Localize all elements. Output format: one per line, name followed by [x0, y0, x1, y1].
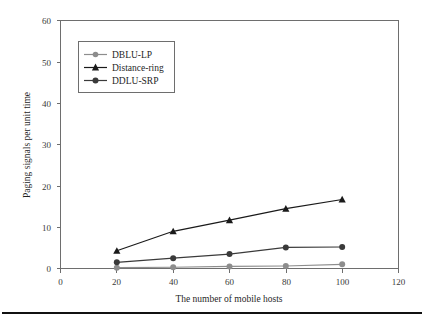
data-point-marker [283, 244, 289, 250]
legend-label-distance-ring: Distance-ring [112, 63, 164, 73]
series-distance-ring [113, 196, 346, 254]
data-point-marker [227, 251, 233, 257]
y-tick-label-10: 10 [42, 223, 52, 233]
data-series-layer [113, 196, 346, 271]
y-tick-label-20: 20 [42, 182, 52, 192]
x-tick-label-40: 40 [169, 277, 179, 287]
legend-marker-circle-icon [93, 52, 99, 58]
data-point-marker [283, 263, 289, 269]
data-point-marker [170, 264, 176, 270]
x-tick-label-120: 120 [392, 277, 406, 287]
x-axis-title: The number of mobile hosts [175, 294, 282, 304]
series-dblu-lp [114, 261, 345, 270]
y-tick-label-60: 60 [42, 16, 52, 26]
line-chart: 0 10 20 30 40 50 60 0 20 40 60 80 100 12… [0, 0, 424, 323]
legend: DBLU-LP Distance-ring DDLU-SRP [79, 42, 175, 93]
x-tick-label-80: 80 [282, 277, 292, 287]
x-tick-label-60: 60 [225, 277, 235, 287]
legend-label-ddlu-srp: DDLU-SRP [112, 76, 158, 86]
legend-marker-circle-icon [93, 78, 99, 84]
y-tick-label-30: 30 [42, 140, 52, 150]
series-ddlu-srp [114, 244, 345, 265]
data-point-marker [114, 265, 120, 271]
legend-label-dblu-lp: DBLU-LP [112, 50, 152, 60]
x-tick-label-0: 0 [58, 277, 63, 287]
x-axis-tick-labels: 0 20 40 60 80 100 120 [58, 277, 406, 287]
data-point-marker [339, 196, 346, 203]
x-tick-label-20: 20 [112, 277, 122, 287]
figure-container: 0 10 20 30 40 50 60 0 20 40 60 80 100 12… [0, 0, 424, 323]
y-tick-label-40: 40 [42, 99, 52, 109]
y-axis-title: Paging signals per unit time [22, 92, 32, 198]
data-point-marker [170, 255, 176, 261]
y-axis-tick-labels: 0 10 20 30 40 50 60 [42, 16, 52, 274]
data-point-marker [339, 244, 345, 250]
data-point-marker [339, 261, 345, 267]
y-axis-ticks [57, 21, 61, 269]
data-point-marker [227, 263, 233, 269]
y-tick-label-50: 50 [42, 58, 52, 68]
y-tick-label-0: 0 [47, 264, 52, 274]
data-point-marker [114, 259, 120, 265]
series-line [117, 199, 342, 250]
x-tick-label-100: 100 [336, 277, 350, 287]
